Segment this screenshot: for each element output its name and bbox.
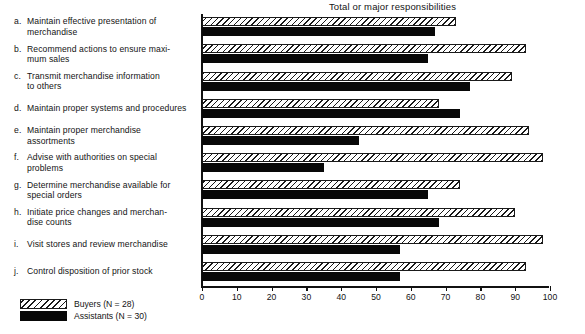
bar-assistants-6 — [202, 190, 428, 199]
category-text-9-0: Control disposition of prior stock — [27, 266, 200, 276]
category-text-8-0: Visit stores and review merchandise — [27, 239, 200, 249]
category-label-5: f.Advise with authorities on specialprob… — [14, 152, 200, 173]
bar-assistants-1 — [202, 54, 428, 63]
bar-assistants-8 — [202, 245, 400, 254]
category-letter-3: d. — [14, 103, 26, 113]
category-text-1-0: Recommend actions to ensure maxi- — [27, 44, 200, 54]
bar-buyers-7 — [202, 208, 515, 217]
bar-assistants-3 — [202, 109, 460, 118]
x-tick-70 — [446, 286, 447, 291]
legend-label-buyers: Buyers (N = 28) — [74, 299, 134, 309]
category-label-7: h.Initiate price changes and merchan-dis… — [14, 207, 200, 228]
category-letter-9: j. — [14, 266, 26, 276]
x-tick-10 — [237, 286, 238, 291]
category-label-8: i.Visit stores and review merchandise — [14, 239, 200, 249]
x-tick-label-10: 10 — [232, 292, 242, 302]
bar-buyers-1 — [202, 44, 526, 53]
category-text-6-0: Determine merchandise available for — [27, 180, 200, 190]
chart-title: Total or major responsibilities — [200, 1, 585, 12]
category-label-column: a.Maintain effective presentation ofmerc… — [0, 14, 200, 286]
category-text-6-1: special orders — [27, 190, 200, 200]
category-text-4-1: assortments — [27, 136, 200, 146]
category-letter-1: b. — [14, 44, 26, 54]
x-tick-label-70: 70 — [441, 292, 451, 302]
bar-buyers-8 — [202, 235, 543, 244]
category-label-2: c.Transmit merchandise informationto oth… — [14, 71, 200, 92]
x-tick-100 — [550, 286, 551, 291]
bar-buyers-4 — [202, 126, 529, 135]
category-letter-0: a. — [14, 16, 26, 26]
category-letter-2: c. — [14, 71, 26, 81]
category-text-1-1: mum sales — [27, 54, 200, 64]
x-tick-60 — [411, 286, 412, 291]
x-axis-line — [201, 286, 549, 288]
x-tick-0 — [202, 286, 203, 291]
bar-assistants-9 — [202, 272, 400, 281]
category-label-3: d.Maintain proper systems and procedures — [14, 103, 200, 113]
category-letter-8: i. — [14, 239, 26, 249]
x-tick-label-60: 60 — [406, 292, 416, 302]
x-tick-label-0: 0 — [200, 292, 205, 302]
category-text-2-0: Transmit merchandise information — [27, 71, 200, 81]
category-letter-7: h. — [14, 207, 26, 217]
category-label-1: b.Recommend actions to ensure maxi-mum s… — [14, 44, 200, 65]
chart-legend: Buyers (N = 28) Assistants (N = 30) — [20, 299, 195, 323]
bar-buyers-9 — [202, 262, 526, 271]
category-text-5-1: problems — [27, 163, 200, 173]
bar-buyers-6 — [202, 180, 460, 189]
legend-item-assistants: Assistants (N = 30) — [20, 311, 195, 322]
category-text-3-0: Maintain proper systems and procedures — [27, 103, 200, 113]
bar-assistants-7 — [202, 218, 439, 227]
legend-swatch-buyers — [20, 299, 67, 309]
x-tick-label-100: 100 — [543, 292, 557, 302]
category-letter-5: f. — [14, 152, 26, 162]
bar-buyers-2 — [202, 72, 512, 81]
category-text-5-0: Advise with authorities on special — [27, 152, 200, 162]
x-tick-20 — [272, 286, 273, 291]
bar-buyers-5 — [202, 153, 543, 162]
category-text-7-0: Initiate price changes and merchan- — [27, 207, 200, 217]
category-text-0-1: merchandise — [27, 27, 200, 37]
bar-assistants-5 — [202, 163, 324, 172]
x-tick-label-90: 90 — [510, 292, 520, 302]
category-label-4: e.Maintain proper merchandiseassortments — [14, 125, 200, 146]
category-text-0-0: Maintain effective presentation of — [27, 16, 200, 26]
category-text-7-1: dise counts — [27, 217, 200, 227]
x-tick-label-20: 20 — [267, 292, 277, 302]
category-letter-4: e. — [14, 125, 26, 135]
category-text-4-0: Maintain proper merchandise — [27, 125, 200, 135]
x-tick-90 — [515, 286, 516, 291]
category-label-0: a.Maintain effective presentation ofmerc… — [14, 16, 200, 37]
bar-buyers-3 — [202, 99, 439, 108]
category-text-2-1: to others — [27, 81, 200, 91]
x-tick-label-50: 50 — [371, 292, 381, 302]
x-tick-80 — [480, 286, 481, 291]
legend-swatch-assistants — [20, 311, 67, 321]
x-tick-50 — [376, 286, 377, 291]
category-letter-6: g. — [14, 180, 26, 190]
category-label-9: j.Control disposition of prior stock — [14, 266, 200, 276]
x-tick-label-80: 80 — [476, 292, 486, 302]
bar-buyers-0 — [202, 17, 456, 26]
x-tick-30 — [306, 286, 307, 291]
x-tick-label-30: 30 — [302, 292, 312, 302]
legend-item-buyers: Buyers (N = 28) — [20, 299, 195, 310]
bar-assistants-2 — [202, 82, 470, 91]
bar-chart: Total or major responsibilities a.Mainta… — [0, 0, 585, 334]
x-tick-40 — [341, 286, 342, 291]
plot-area: 0102030405060708090100 — [202, 14, 550, 286]
bar-assistants-0 — [202, 27, 435, 36]
x-tick-label-40: 40 — [336, 292, 346, 302]
bar-assistants-4 — [202, 136, 359, 145]
legend-label-assistants: Assistants (N = 30) — [74, 311, 147, 321]
category-label-6: g.Determine merchandise available forspe… — [14, 180, 200, 201]
